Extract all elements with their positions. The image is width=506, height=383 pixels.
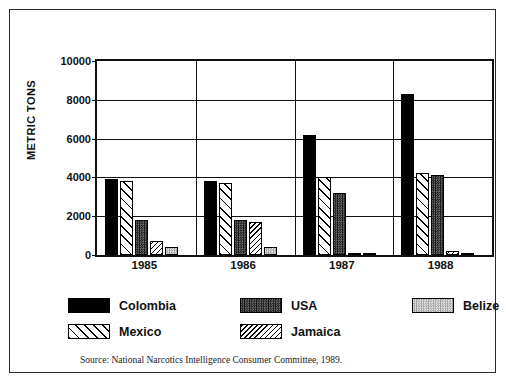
bar-usa-1988 bbox=[431, 175, 444, 256]
legend-swatch-colombia bbox=[68, 298, 110, 313]
y-axis-tick-mark bbox=[92, 216, 97, 217]
legend-label-mexico: Mexico bbox=[119, 325, 161, 339]
legend-label-jamaica: Jamaica bbox=[291, 325, 340, 339]
y-axis-tick-label: 8000 bbox=[67, 94, 91, 106]
bar-jamaica-1985 bbox=[150, 241, 163, 255]
y-axis-tick-label: 6000 bbox=[67, 133, 91, 145]
bar-belize-1985 bbox=[165, 247, 178, 255]
group-separator bbox=[393, 61, 394, 255]
legend-item-belize[interactable]: Belize bbox=[412, 298, 499, 313]
legend-row-top: ColombiaUSABelize bbox=[68, 298, 468, 324]
bar-usa-1985 bbox=[135, 220, 148, 255]
y-axis-title: METRIC TONS bbox=[25, 55, 37, 185]
chart-figure: METRIC TONS 0200040006000800010000 Colom… bbox=[9, 9, 496, 373]
bar-colombia-1988 bbox=[401, 94, 414, 255]
legend-row-bottom: MexicoJamaica bbox=[68, 324, 468, 350]
bar-mexico-1986 bbox=[219, 183, 232, 255]
bar-belize-1988 bbox=[461, 253, 474, 255]
bar-jamaica-1986 bbox=[249, 222, 262, 255]
legend-item-colombia[interactable]: Colombia bbox=[68, 298, 176, 313]
legend-swatch-usa bbox=[240, 298, 282, 313]
y-axis-tick-mark bbox=[92, 61, 97, 62]
source-note: Source: National Narcotics Intelligence … bbox=[80, 355, 342, 365]
legend-swatch-belize bbox=[412, 298, 454, 313]
bar-belize-1987 bbox=[363, 253, 376, 255]
bar-belize-1986 bbox=[264, 247, 277, 255]
y-axis-tick-mark bbox=[92, 255, 97, 256]
x-axis-tick-label-1988: 1988 bbox=[391, 259, 490, 271]
y-axis-tick-mark bbox=[92, 177, 97, 178]
bar-usa-1987 bbox=[333, 193, 346, 255]
bar-jamaica-1988 bbox=[446, 251, 459, 255]
legend-item-usa[interactable]: USA bbox=[240, 298, 317, 313]
y-axis-tick-label: 0 bbox=[85, 249, 91, 261]
x-axis-tick-label-1985: 1985 bbox=[95, 259, 194, 271]
legend-swatch-mexico bbox=[68, 324, 110, 339]
bar-mexico-1985 bbox=[120, 181, 133, 255]
bar-jamaica-1987 bbox=[348, 253, 361, 255]
plot-area: 0200040006000800010000 bbox=[95, 59, 494, 257]
bar-colombia-1985 bbox=[105, 179, 118, 255]
bar-colombia-1986 bbox=[204, 181, 217, 255]
y-axis-tick-label: 10000 bbox=[60, 55, 91, 67]
x-axis-tick-label-1986: 1986 bbox=[194, 259, 293, 271]
legend-label-colombia: Colombia bbox=[119, 299, 176, 313]
legend-label-usa: USA bbox=[291, 299, 317, 313]
legend-label-belize: Belize bbox=[463, 299, 499, 313]
y-axis-tick-label: 4000 bbox=[67, 171, 91, 183]
legend-item-mexico[interactable]: Mexico bbox=[68, 324, 161, 339]
bar-mexico-1988 bbox=[416, 173, 429, 255]
y-axis-tick-mark bbox=[92, 139, 97, 140]
y-axis-tick-mark bbox=[92, 100, 97, 101]
bar-mexico-1987 bbox=[318, 177, 331, 255]
bar-colombia-1987 bbox=[303, 135, 316, 255]
chart-legend: ColombiaUSABelize MexicoJamaica bbox=[68, 298, 468, 350]
y-axis-tick-label: 2000 bbox=[67, 210, 91, 222]
x-axis-tick-label-1987: 1987 bbox=[293, 259, 392, 271]
group-separator bbox=[295, 61, 296, 255]
legend-swatch-jamaica bbox=[240, 324, 282, 339]
bar-usa-1986 bbox=[234, 220, 247, 255]
plot-inner: 0200040006000800010000 bbox=[97, 61, 492, 255]
group-separator bbox=[196, 61, 197, 255]
legend-item-jamaica[interactable]: Jamaica bbox=[240, 324, 340, 339]
